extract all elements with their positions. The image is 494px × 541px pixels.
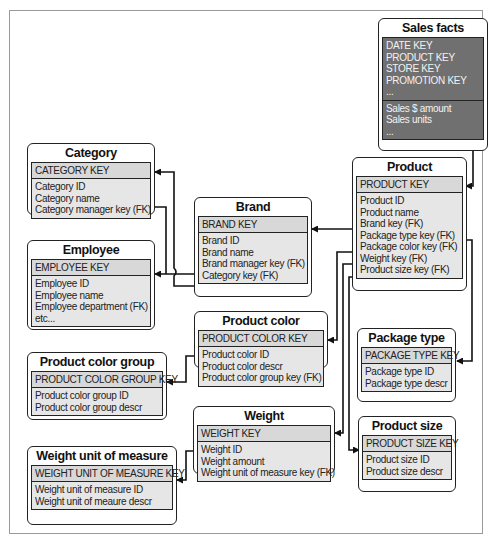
entity-attributes: Brand ID Brand name Brand manager key (F… xyxy=(198,232,308,284)
attribute-field: Product size ID xyxy=(366,454,448,466)
entity-brand[interactable]: Brand BRAND KEY Brand ID Brand name Bran… xyxy=(194,197,312,297)
primary-key: WEIGHT UNIT OF MEASURE KEY xyxy=(31,465,173,481)
entity-attributes: Employee ID Employee name Employee depar… xyxy=(31,275,151,327)
entity-attributes: Category ID Category name Category manag… xyxy=(31,178,151,219)
attribute-field: Weight unit of meaure descr xyxy=(35,496,169,508)
entity-attributes: Package type ID Package type descr xyxy=(361,363,452,392)
attribute-field: Brand name xyxy=(202,247,304,259)
entity-title: Product color group xyxy=(31,353,163,371)
attribute-field: Product color group ID xyxy=(35,390,159,402)
entity-attributes: Product color ID Product color descr Pro… xyxy=(198,346,324,387)
connector-category-employee xyxy=(154,207,166,274)
entity-attributes: Product size ID Product size descr xyxy=(362,451,452,480)
primary-key: EMPLOYEE KEY xyxy=(31,259,151,275)
key-field: PROMOTION KEY xyxy=(386,75,480,87)
attribute-field: Category manager key (FK) xyxy=(35,204,147,216)
attribute-field: Product name xyxy=(360,207,459,219)
entity-category[interactable]: Category CATEGORY KEY Category ID Catego… xyxy=(27,143,155,215)
entity-package-type[interactable]: Package type PACKAGE TYPE KEY Package ty… xyxy=(357,328,456,402)
attribute-field: Package color key (FK) xyxy=(360,241,459,253)
attribute-field: Weight ID xyxy=(201,444,327,456)
entity-attributes: Weight unit of measure ID Weight unit of… xyxy=(31,481,173,510)
attribute-field: Weight amount xyxy=(201,456,327,468)
attribute-field: Product color ID xyxy=(202,349,320,361)
entity-weight[interactable]: Weight WEIGHT KEY Weight ID Weight amoun… xyxy=(193,406,335,474)
entity-title: Brand xyxy=(198,198,308,216)
key-field: DATE KEY xyxy=(386,40,480,52)
connector-product-productcolor xyxy=(328,252,354,340)
attribute-field: Weight unit of measure key (FK) xyxy=(201,467,327,479)
attribute-field: Category key (FK) xyxy=(202,270,304,282)
attribute-field: Package type key (FK) xyxy=(360,230,459,242)
entity-product-size[interactable]: Product size PRODUCT SIZE KEY Product si… xyxy=(358,416,456,492)
attribute-field: Category ID xyxy=(35,181,147,193)
entity-keys: DATE KEY PRODUCT KEY STORE KEY PROMOTION… xyxy=(382,37,484,100)
attribute-field: etc... xyxy=(35,313,147,325)
attribute-field: Product color group descr xyxy=(35,402,159,414)
attribute-field: Category name xyxy=(35,193,147,205)
attribute-field: Product color group key (FK) xyxy=(202,372,320,384)
attribute-field: ... xyxy=(386,126,480,138)
entity-title: Weight xyxy=(197,407,331,425)
entity-product-color-group[interactable]: Product color group PRODUCT COLOR GROUP … xyxy=(27,352,167,420)
attribute-field: Product size descr xyxy=(366,466,448,478)
connector-brand-category xyxy=(155,172,196,286)
attribute-field: Employee department (FK) xyxy=(35,301,147,313)
attribute-field: Product size key (FK) xyxy=(360,264,459,276)
key-field: STORE KEY xyxy=(386,63,480,75)
entity-product[interactable]: Product PRODUCT KEY Product ID Product n… xyxy=(352,157,467,291)
entity-title: Product size xyxy=(362,417,452,435)
entity-attributes: Product color group ID Product color gro… xyxy=(31,387,163,416)
attribute-field: Package type descr xyxy=(365,378,448,390)
attribute-field: Sales units xyxy=(386,114,480,126)
attribute-field: Sales $ amount xyxy=(386,103,480,115)
primary-key: PACKAGE TYPE KEY xyxy=(361,347,452,363)
primary-key: BRAND KEY xyxy=(198,216,308,232)
entity-sales-facts[interactable]: Sales facts DATE KEY PRODUCT KEY STORE K… xyxy=(378,18,488,151)
attribute-field: Product color descr xyxy=(202,361,320,373)
entity-attributes: Product ID Product name Brand key (FK) P… xyxy=(356,192,463,279)
attribute-field: Product ID xyxy=(360,195,459,207)
entity-title: Package type xyxy=(361,329,452,347)
attribute-field: Brand manager key (FK) xyxy=(202,258,304,270)
entity-employee[interactable]: Employee EMPLOYEE KEY Employee ID Employ… xyxy=(27,240,155,330)
entity-title: Category xyxy=(31,144,151,162)
primary-key: PRODUCT COLOR KEY xyxy=(198,330,324,346)
primary-key: PRODUCT SIZE KEY xyxy=(362,435,452,451)
primary-key: PRODUCT KEY xyxy=(356,176,463,192)
attribute-field: Weight key (FK) xyxy=(360,253,459,265)
attribute-field: Weight unit of measure ID xyxy=(35,484,169,496)
entity-product-color[interactable]: Product color PRODUCT COLOR KEY Product … xyxy=(194,311,328,368)
attribute-field: Package type ID xyxy=(365,366,448,378)
key-field: PRODUCT KEY xyxy=(386,52,480,64)
entity-title: Employee xyxy=(31,241,151,259)
key-field: ... xyxy=(386,86,480,98)
attribute-field: Employee name xyxy=(35,290,147,302)
primary-key: CATEGORY KEY xyxy=(31,162,151,178)
entity-weight-unit-of-measure[interactable]: Weight unit of measure WEIGHT UNIT OF ME… xyxy=(27,446,177,525)
entity-title: Product xyxy=(356,158,463,176)
entity-attributes: Weight ID Weight amount Weight unit of m… xyxy=(197,441,331,482)
connector-product-weight xyxy=(335,264,354,433)
attribute-field: Brand key (FK) xyxy=(360,218,459,230)
attribute-field: Brand ID xyxy=(202,235,304,247)
attribute-field: Employee ID xyxy=(35,278,147,290)
entity-title: Weight unit of measure xyxy=(31,447,173,465)
entity-attributes: Sales $ amount Sales units ... xyxy=(382,100,484,141)
primary-key: PRODUCT COLOR GROUP KEY xyxy=(31,371,163,387)
entity-title: Product color xyxy=(198,312,324,330)
entity-title: Sales facts xyxy=(382,19,484,37)
primary-key: WEIGHT KEY xyxy=(197,425,331,441)
